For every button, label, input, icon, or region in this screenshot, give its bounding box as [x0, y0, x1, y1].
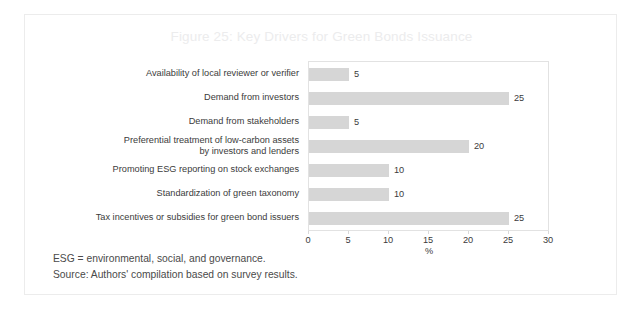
y-axis-label: Promoting ESG reporting on stock exchang…: [65, 164, 299, 176]
bar-value-label: 5: [354, 68, 359, 81]
figure-title: Figure 25: Key Drivers for Green Bonds I…: [25, 29, 618, 44]
bar-value-label: 20: [474, 140, 484, 153]
x-tick-label: 25: [503, 235, 513, 245]
bar: [309, 116, 349, 129]
x-tick-mark: [308, 231, 309, 234]
x-tick-label: 0: [305, 235, 310, 245]
bar: [309, 188, 389, 201]
y-axis-label: Preferential treatment of low-carbon ass…: [65, 135, 299, 158]
x-tick-label: 5: [345, 235, 350, 245]
note-esg: ESG = environmental, social, and governa…: [53, 251, 593, 267]
x-tick-label: 10: [383, 235, 393, 245]
x-tick-mark: [388, 231, 389, 234]
chart-plot-area: Availability of local reviewer or verifi…: [25, 57, 618, 243]
bar: [309, 68, 349, 81]
bar-value-label: 10: [394, 164, 404, 177]
bar: [309, 164, 389, 177]
bars-layer: 525520101025: [309, 62, 549, 230]
x-tick-mark: [508, 231, 509, 234]
y-axis-category-labels: Availability of local reviewer or verifi…: [65, 61, 303, 231]
note-source: Source: Authors' compilation based on su…: [53, 267, 593, 283]
bar-value-label: 10: [394, 188, 404, 201]
bar-value-label: 25: [514, 212, 524, 225]
bar: [309, 212, 509, 225]
bar-value-label: 25: [514, 92, 524, 105]
figure-notes: ESG = environmental, social, and governa…: [53, 251, 593, 283]
y-axis-label: Demand from stakeholders: [65, 116, 299, 128]
y-axis-label: Standardization of green taxonomy: [65, 188, 299, 200]
figure-card: Figure 25: Key Drivers for Green Bonds I…: [24, 14, 617, 295]
x-tick-label: 20: [463, 235, 473, 245]
x-tick-label: 30: [543, 235, 553, 245]
y-axis-label: Tax incentives or subsidies for green bo…: [65, 212, 299, 224]
bar: [309, 140, 469, 153]
x-tick-label: 15: [423, 235, 433, 245]
x-tick-mark: [468, 231, 469, 234]
y-axis-label: Demand from investors: [65, 92, 299, 104]
bar: [309, 92, 509, 105]
x-tick-mark: [548, 231, 549, 234]
x-tick-mark: [428, 231, 429, 234]
x-tick-mark: [348, 231, 349, 234]
bar-value-label: 5: [354, 116, 359, 129]
y-axis-label: Availability of local reviewer or verifi…: [65, 68, 299, 80]
